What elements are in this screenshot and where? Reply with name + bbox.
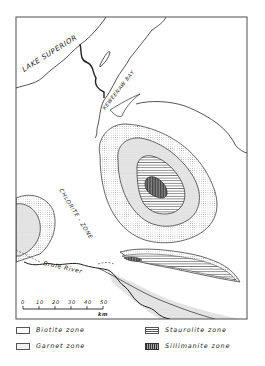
metamorphic-zone-map: LAKE SUPERIOR KEWEENAW BAY CHLORITE - ZO…	[0, 0, 265, 366]
keweenaw-west-coast	[80, 44, 104, 98]
legend-label-staurolite: Staurolite zone	[165, 326, 227, 334]
scale-tick-50: 50	[100, 299, 108, 305]
scale-bar: 0 10 20 30 40 50 km	[21, 299, 108, 317]
scale-tick-20: 20	[52, 299, 60, 305]
garnet-zone-southeast	[108, 272, 240, 319]
legend-item-sillimanite: Sillimanite zone	[145, 342, 230, 350]
legend-item-staurolite: Staurolite zone	[145, 326, 227, 334]
scale-tick-0: 0	[21, 299, 25, 305]
staurolite-zone-south-tongue	[122, 254, 236, 280]
legend-label-garnet: Garnet zone	[36, 342, 85, 350]
scale-tick-40: 40	[84, 299, 92, 305]
legend-item-garnet: Garnet zone	[16, 342, 85, 350]
sillimanite-swatch-icon	[145, 343, 159, 350]
scale-unit: km	[98, 311, 108, 317]
scale-tick-30: 30	[68, 299, 76, 305]
label-keweenaw-bay: KEWEENAW BAY	[101, 69, 136, 111]
biotite-swatch-icon	[16, 327, 30, 334]
scale-tick-10: 10	[36, 299, 44, 305]
label-chlorite-zone: CHLORITE - ZONE	[58, 187, 94, 240]
label-brule-river: Brule River	[43, 259, 83, 274]
legend-label-biotite: Biotite zone	[36, 326, 85, 334]
lake-superior-shoreline	[16, 17, 106, 88]
garnet-swatch-icon	[16, 343, 30, 350]
staurolite-swatch-icon	[145, 327, 159, 334]
legend-label-sillimanite: Sillimanite zone	[165, 342, 230, 350]
legend-item-biotite: Biotite zone	[16, 326, 85, 334]
